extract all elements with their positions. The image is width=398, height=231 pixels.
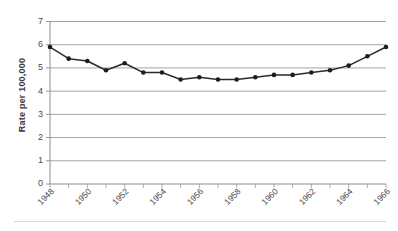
x-axis-ticks [50,184,386,188]
x-tick-label-1966: 1966 [371,186,392,207]
x-tick-label-1950: 1950 [73,186,94,207]
axis-lines [50,22,386,185]
x-tick-label-1948: 1948 [35,186,56,207]
y-tick-label-6: 6 [38,39,43,49]
data-point-1961 [290,73,295,78]
data-point-1952 [122,61,127,66]
data-point-1949 [66,56,71,61]
x-tick-label-1964: 1964 [334,186,355,207]
x-tick-label-1958: 1958 [222,186,243,207]
y-axis-ticks: 01234567 [38,16,50,189]
data-point-1957 [216,77,221,82]
data-point-1955 [178,77,183,82]
y-tick-label-2: 2 [38,132,43,142]
data-point-1960 [272,73,277,78]
data-point-1965 [365,54,370,59]
data-point-1953 [141,70,146,75]
x-tick-label-1954: 1954 [147,186,168,207]
x-tick-label-1952: 1952 [110,186,131,207]
data-point-1956 [197,75,202,80]
data-point-1966 [384,45,389,50]
y-tick-label-7: 7 [38,16,43,26]
data-point-1954 [160,70,165,75]
data-point-1959 [253,75,258,80]
y-tick-label-5: 5 [38,62,43,72]
data-point-1962 [309,70,314,75]
data-point-1950 [85,59,90,64]
data-markers [48,45,389,82]
y-tick-label-0: 0 [38,178,43,188]
series-line-rate-per-100000 [50,47,386,80]
data-point-1948 [48,45,53,50]
data-point-1963 [328,68,333,73]
x-tick-label-1962: 1962 [297,186,318,207]
footer-divider [14,221,386,222]
line-chart-plot: 01234567 1948195019521954195619581960196… [0,0,398,231]
y-tick-label-3: 3 [38,109,43,119]
x-tick-label-1960: 1960 [259,186,280,207]
data-series [50,47,386,80]
chart-figure: Rate per 100,000 01234567 19481950195219… [0,0,398,231]
data-point-1951 [104,68,109,73]
y-tick-label-4: 4 [38,86,43,96]
y-tick-label-1: 1 [38,155,43,165]
x-axis-labels: 1948195019521954195619581960196219641966 [35,186,392,207]
x-tick-label-1956: 1956 [185,186,206,207]
data-point-1958 [234,77,239,82]
gridlines [50,22,386,161]
data-point-1964 [346,63,351,68]
